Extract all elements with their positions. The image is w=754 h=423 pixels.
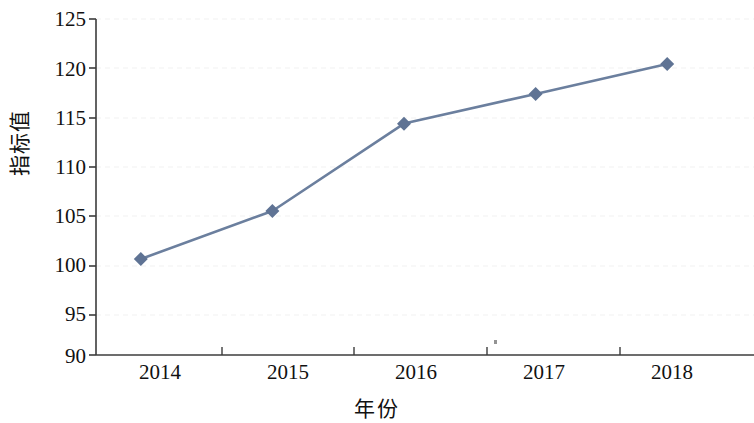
data-point-marker	[397, 117, 411, 131]
x-tick-label: 2014	[96, 362, 224, 392]
data-series-line	[141, 64, 667, 259]
x-tick-label: 2016	[352, 362, 480, 392]
data-point-marker	[134, 252, 148, 266]
scan-artifact-speck	[494, 340, 497, 344]
data-point-marker	[529, 87, 543, 101]
data-point-marker	[660, 57, 674, 71]
x-tick-label: 2017	[480, 362, 608, 392]
x-axis-tick-labels: 2014 2015 2016 2017 2018	[96, 362, 736, 392]
line-chart-figure: 指标值 125 120 115 110 105 100 95 90	[0, 0, 754, 423]
gridlines	[96, 19, 754, 315]
plot-area	[0, 0, 754, 423]
x-tick-label: 2018	[608, 362, 736, 392]
x-tick-label: 2015	[224, 362, 352, 392]
data-point-markers	[134, 57, 674, 266]
x-axis-title: 年份	[0, 392, 754, 422]
x-axis-ticks	[222, 347, 620, 355]
y-axis-ticks	[89, 19, 96, 355]
axis-lines	[96, 19, 754, 355]
